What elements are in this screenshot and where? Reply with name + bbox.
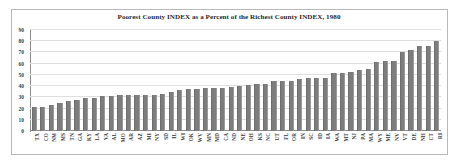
bar-FL <box>280 81 285 132</box>
bar-MA <box>366 69 371 131</box>
bar-slot <box>364 30 373 131</box>
bar-slot <box>218 30 227 131</box>
x-label-slot: WI <box>176 132 185 154</box>
bar-slot <box>236 30 245 131</box>
bar-AL <box>109 96 114 131</box>
x-label-slot: NM <box>47 132 56 154</box>
bar-slot <box>64 30 73 131</box>
x-label-slot: MI <box>141 132 150 154</box>
x-label-slot: WV <box>193 132 202 154</box>
bar-slot <box>304 30 313 131</box>
bar-LA <box>92 98 97 131</box>
bar-slot <box>261 30 270 131</box>
bar-slot <box>201 30 210 131</box>
bar-WI <box>177 90 182 131</box>
chart-figure: Poorest County INDEX as a Percent of the… <box>0 0 458 163</box>
bar-slot <box>184 30 193 131</box>
bar-WY <box>374 62 379 131</box>
x-label-slot: MO <box>116 132 125 154</box>
x-label-slot: FL <box>278 132 287 154</box>
bar-slot <box>398 30 407 131</box>
bar-NV <box>391 61 396 131</box>
bar-slot <box>124 30 133 131</box>
bar-slot <box>193 30 202 131</box>
x-label-slot: MN <box>201 132 210 154</box>
x-label-slot: CT <box>424 132 433 154</box>
bar-SC <box>306 78 311 131</box>
bar-slot <box>390 30 399 131</box>
bar-slot <box>278 30 287 131</box>
bar-SD <box>160 94 165 131</box>
bar-OK <box>186 89 191 131</box>
bar-slot <box>99 30 108 131</box>
bar-slot <box>321 30 330 131</box>
bar-VA <box>100 96 105 131</box>
bar-WV <box>194 89 199 131</box>
x-label-slot: KS <box>253 132 262 154</box>
bar-slot <box>355 30 364 131</box>
bar-slot <box>90 30 99 131</box>
bar-slot <box>330 30 339 131</box>
bar-slot <box>30 30 39 131</box>
x-label-slot: MT <box>338 132 347 154</box>
x-label-slot: GA <box>73 132 82 154</box>
bar-slot <box>81 30 90 131</box>
x-label-slot: KY <box>81 132 90 154</box>
bar-slot <box>167 30 176 131</box>
bar-slot <box>116 30 125 131</box>
x-label-slot: CO <box>39 132 48 154</box>
bar-slot <box>39 30 48 131</box>
x-label-slot: IN <box>295 132 304 154</box>
x-label-slot: IL <box>167 132 176 154</box>
x-label-slot: IA <box>321 132 330 154</box>
bar-slot <box>158 30 167 131</box>
x-label-slot: NE <box>236 132 245 154</box>
bar-KS <box>254 84 259 131</box>
x-label-slot: TN <box>64 132 73 154</box>
bar-KY <box>83 98 88 131</box>
bar-series <box>30 30 441 131</box>
x-label-slot: NC <box>261 132 270 154</box>
plot-area <box>30 30 441 131</box>
y-tick-label: 10 <box>19 117 24 123</box>
x-label-slot: WA <box>330 132 339 154</box>
bar-MN <box>203 88 208 131</box>
x-label-slot: AR <box>124 132 133 154</box>
bar-slot <box>373 30 382 131</box>
bar-NE <box>237 86 242 131</box>
bar-VT <box>400 52 405 131</box>
bar-slot <box>424 30 433 131</box>
bar-NM <box>49 105 54 131</box>
bar-slot <box>338 30 347 131</box>
x-tick-label-RI: RI <box>437 133 443 139</box>
x-label-slot: AL <box>107 132 116 154</box>
bar-RI <box>434 41 439 131</box>
y-tick-label: 20 <box>19 106 24 112</box>
bar-slot <box>295 30 304 131</box>
bar-CA <box>220 88 225 131</box>
x-label-slot: WY <box>373 132 382 154</box>
x-label-slot: MS <box>56 132 65 154</box>
y-tick-label: 60 <box>19 61 24 67</box>
bar-IN <box>297 79 302 131</box>
bar-slot <box>244 30 253 131</box>
bar-slot <box>287 30 296 131</box>
x-label-slot: ME <box>381 132 390 154</box>
bar-slot <box>150 30 159 131</box>
bar-CO <box>40 107 45 131</box>
bar-MD <box>211 88 216 131</box>
bar-NJ <box>348 72 353 131</box>
x-label-slot: VT <box>398 132 407 154</box>
x-label-slot: NV <box>390 132 399 154</box>
bar-WA <box>331 73 336 131</box>
bar-slot <box>56 30 65 131</box>
bar-ND <box>229 87 234 131</box>
bar-slot <box>210 30 219 131</box>
bar-slot <box>432 30 441 131</box>
x-label-slot: NJ <box>347 132 356 154</box>
bar-PA <box>357 70 362 131</box>
x-label-slot: SD <box>158 132 167 154</box>
bar-slot <box>73 30 82 131</box>
bar-OH <box>246 85 251 131</box>
x-label-slot: AZ <box>133 132 142 154</box>
